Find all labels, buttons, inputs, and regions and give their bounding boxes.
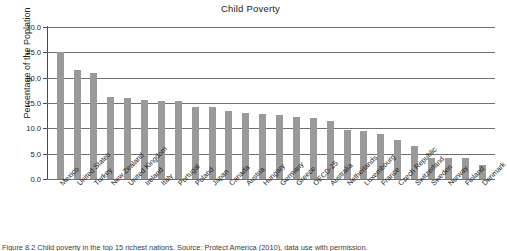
y-tick-label: 20.0 — [0, 73, 41, 82]
bar — [175, 101, 182, 179]
y-tick-mark — [43, 154, 47, 155]
y-tick-label: 25.0 — [0, 48, 41, 57]
y-tick-mark — [43, 27, 47, 28]
y-tick-label: 10.0 — [0, 124, 41, 133]
bar — [57, 52, 64, 179]
y-tick-label: 0.0 — [0, 175, 41, 184]
y-tick-mark — [43, 52, 47, 53]
bar — [74, 70, 81, 179]
x-axis-category-labels: MexicoUnited StatesTurkeyNew ZealandUnit… — [47, 181, 495, 239]
y-tick-mark — [43, 128, 47, 129]
y-tick-mark — [43, 179, 47, 180]
y-tick-label: 5.0 — [0, 149, 41, 158]
figure-caption: Figure 8.2 Child poverty in the top 15 r… — [2, 243, 499, 251]
chart-title: Child Poverty — [0, 3, 501, 14]
y-tick-label: 30.0 — [0, 23, 41, 32]
y-tick-mark — [43, 103, 47, 104]
y-tick-mark — [43, 78, 47, 79]
y-tick-label: 15.0 — [0, 99, 41, 108]
